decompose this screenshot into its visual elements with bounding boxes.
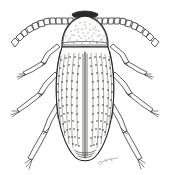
beetle-illustration-figure: Beetle (Coleoptera) dorsal view line ill… [0, 0, 170, 175]
beetle-drawing [0, 0, 170, 175]
